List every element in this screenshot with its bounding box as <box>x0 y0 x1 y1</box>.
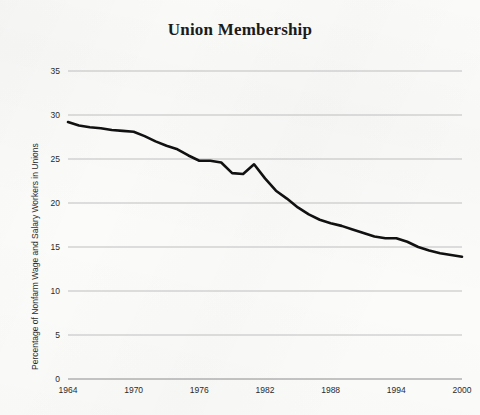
x-tick-label: 1976 <box>179 385 219 395</box>
chart-canvas <box>0 0 480 415</box>
y-tick-label: 5 <box>34 330 60 340</box>
chart-figure: Union Membership Percentage of Nonfarm W… <box>0 0 480 415</box>
x-tick-label: 2000 <box>442 385 480 395</box>
x-tick-label: 1994 <box>376 385 416 395</box>
x-tick-label: 1964 <box>48 385 88 395</box>
union-membership-line <box>68 122 462 257</box>
y-tick-label: 30 <box>34 110 60 120</box>
y-tick-label: 35 <box>34 66 60 76</box>
gridline-group <box>68 71 462 335</box>
x-tick-label: 1982 <box>245 385 285 395</box>
y-tick-label: 20 <box>34 198 60 208</box>
y-tick-label: 15 <box>34 242 60 252</box>
y-tick-label: 0 <box>34 374 60 384</box>
y-tick-label: 10 <box>34 286 60 296</box>
x-tick-label: 1988 <box>311 385 351 395</box>
y-tick-label: 25 <box>34 154 60 164</box>
x-tick-label: 1970 <box>114 385 154 395</box>
